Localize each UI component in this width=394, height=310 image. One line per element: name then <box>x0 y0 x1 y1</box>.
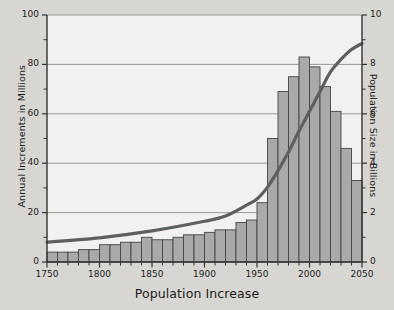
bar-1880 <box>184 235 195 262</box>
bar-1860 <box>163 240 174 262</box>
bar-1930 <box>236 222 247 262</box>
x-tick-label-2000: 2000 <box>290 269 330 279</box>
bar-1780 <box>79 250 90 262</box>
y-tick-label-right-0: 0 <box>370 256 394 266</box>
x-axis-title: Population Increase <box>0 286 394 301</box>
bar-1810 <box>110 245 121 262</box>
x-tick-label-2050: 2050 <box>342 269 382 279</box>
x-tick-label-1850: 1850 <box>132 269 172 279</box>
y-tick-label-left-0: 0 <box>3 256 39 266</box>
y-axis-right-title: Population Size in Billions <box>368 66 379 206</box>
bar-1820 <box>121 242 132 262</box>
y-tick-label-left-80: 80 <box>3 58 39 68</box>
y-tick-label-right-8: 8 <box>370 58 394 68</box>
y-axis-left-title: Annual Increments in Millions <box>16 68 27 208</box>
y-tick-label-right-2: 2 <box>370 207 394 217</box>
y-tick-label-right-4: 4 <box>370 157 394 167</box>
population-increase-chart: Annual Increments in Millions Population… <box>0 0 394 310</box>
y-tick-label-left-60: 60 <box>3 108 39 118</box>
bar-1770 <box>68 252 79 262</box>
bar-1920 <box>226 230 237 262</box>
y-tick-label-right-10: 10 <box>370 9 394 19</box>
bar-1850 <box>152 240 163 262</box>
bar-2020 <box>331 111 342 262</box>
bar-1940 <box>247 220 258 262</box>
bar-2030 <box>341 148 352 262</box>
bar-1890 <box>194 235 205 262</box>
bar-1970 <box>278 92 289 262</box>
bar-1790 <box>89 250 100 262</box>
y-tick-label-left-100: 100 <box>3 9 39 19</box>
bar-1990 <box>299 57 310 262</box>
bar-1760 <box>58 252 69 262</box>
bar-2010 <box>320 87 331 262</box>
y-tick-label-left-40: 40 <box>3 157 39 167</box>
bar-1870 <box>173 237 184 262</box>
x-tick-label-1950: 1950 <box>237 269 277 279</box>
bar-1750 <box>47 252 58 262</box>
bar-1960 <box>268 139 279 263</box>
bar-1840 <box>142 237 153 262</box>
bar-1950 <box>257 203 268 262</box>
x-tick-label-1900: 1900 <box>185 269 225 279</box>
bar-1830 <box>131 242 142 262</box>
bar-2040 <box>352 180 363 262</box>
bar-1910 <box>215 230 226 262</box>
x-tick-label-1750: 1750 <box>27 269 67 279</box>
chart-canvas <box>0 0 394 310</box>
bar-1800 <box>100 245 111 262</box>
y-tick-label-right-6: 6 <box>370 108 394 118</box>
y-tick-label-left-20: 20 <box>3 207 39 217</box>
bar-1900 <box>205 232 216 262</box>
bar-1980 <box>289 77 300 262</box>
x-tick-label-1800: 1800 <box>80 269 120 279</box>
